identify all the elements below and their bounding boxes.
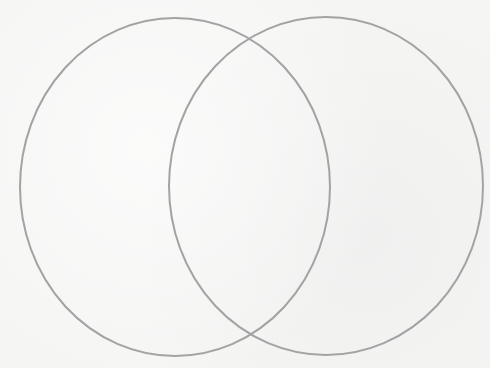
left-set-ellipse (20, 18, 330, 356)
right-set-ellipse (169, 17, 483, 355)
venn-diagram-canvas (0, 0, 490, 368)
venn-diagram (0, 0, 490, 368)
